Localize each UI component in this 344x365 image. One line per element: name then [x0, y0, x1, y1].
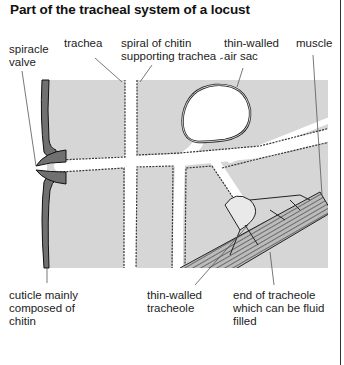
trachea-vertical-main: [130, 80, 131, 270]
air-sac: [183, 85, 251, 142]
leader-spiracle-valve: [22, 71, 36, 166]
trachea-branch-down: [178, 162, 180, 270]
tracheal-system-illustration: [0, 0, 344, 365]
frame-border: [340, 0, 341, 365]
leader-trachea: [95, 58, 122, 82]
leader-spiral-of-chitin: [140, 65, 152, 82]
